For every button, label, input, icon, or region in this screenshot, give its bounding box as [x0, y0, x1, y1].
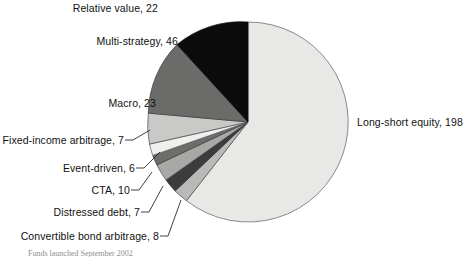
pie-slices [148, 22, 349, 222]
pie-label-distressed-debt: Distressed debt, 7 [54, 206, 140, 218]
pie-chart-figure: Relative value, 22 Multi-strategy, 46 Ma… [0, 0, 468, 257]
leader-line-fixed-income-arbitrage [125, 130, 150, 140]
pie-label-multi-strategy: Multi-strategy, 46 [96, 35, 178, 47]
pie-label-fixed-income-arbitrage: Fixed-income arbitrage, 7 [2, 134, 124, 146]
pie-label-convertible-bond-arbitrage: Convertible bond arbitrage, 8 [21, 230, 159, 242]
leader-line-cta [131, 172, 152, 190]
pie-label-macro: Macro, 23 [108, 97, 156, 109]
pie-label-cta: CTA, 10 [92, 184, 130, 196]
chart-footnote: Funds launched September 2002 [28, 249, 133, 257]
pie-label-event-driven: Event-driven, 6 [63, 162, 135, 174]
leader-line-distressed-debt [141, 186, 163, 212]
pie-label-long-short-equity: Long-short equity, 198 [357, 116, 463, 128]
pie-label-relative-value: Relative value, 22 [73, 2, 158, 14]
pie-chart-svg [0, 0, 468, 257]
leader-line-convertible-bond-arbitrage [160, 200, 181, 236]
